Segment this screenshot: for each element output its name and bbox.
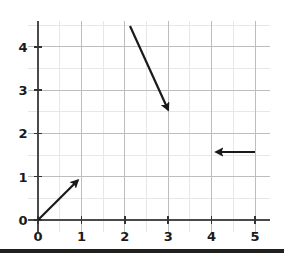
y-axis-tick-labels: 01234 [18,40,27,228]
y-axis-tick-label: 2 [18,126,27,141]
x-axis-tick-label: 0 [33,229,42,244]
chart-figure: 012345 01234 [0,0,284,253]
y-axis-tick-label: 3 [18,83,27,98]
y-axis-tick-label: 0 [18,213,27,228]
x-axis-tick-label: 5 [250,229,259,244]
x-axis-tick-label: 4 [207,229,216,244]
axis-lines [28,21,270,232]
figure-bottom-edge [0,249,284,253]
x-axis-tick-label: 3 [164,229,173,244]
y-axis-tick-label: 1 [18,170,27,185]
vector-arrow-1 [38,180,78,220]
tick-marks [34,47,255,224]
x-axis-tick-label: 2 [120,229,129,244]
major-gridlines [28,21,270,232]
minor-gridlines [28,21,270,232]
x-axis-tick-label: 1 [77,229,86,244]
y-axis-tick-label: 4 [18,40,27,55]
plot-area: 012345 01234 [0,0,284,253]
